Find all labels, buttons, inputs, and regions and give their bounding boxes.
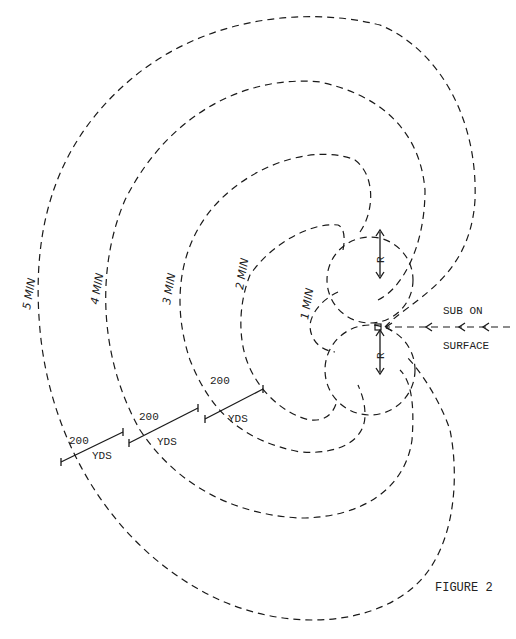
contour-2min xyxy=(241,225,344,420)
scale-bar-2-value: 200 xyxy=(139,411,159,423)
approach-arrow xyxy=(386,323,510,331)
scale-bar-2-unit: YDS xyxy=(157,436,177,448)
scale-bar-1-unit: YDS xyxy=(92,450,112,462)
diagram-canvas: R R SUB ON SURFACE 5 MIN 4 MIN 3 MIN 2 M… xyxy=(0,0,516,639)
lower-circle xyxy=(325,325,415,415)
radius-label-top: R xyxy=(375,256,387,263)
radius-label-bottom: R xyxy=(375,352,387,359)
contour-3min xyxy=(180,154,371,452)
sub-label-line2: SURFACE xyxy=(443,340,490,352)
figure-caption: FIGURE 2 xyxy=(435,581,493,595)
scale-bar-3-unit: YDS xyxy=(228,413,248,425)
label-2min: 2 MIN xyxy=(233,257,251,290)
sub-label-line1: SUB ON xyxy=(443,305,483,317)
contour-5min xyxy=(38,17,475,620)
radius-arrow-bottom xyxy=(376,330,384,374)
label-4min: 4 MIN xyxy=(88,272,106,305)
label-5min: 5 MIN xyxy=(20,277,38,310)
scale-bar-3-value: 200 xyxy=(210,375,230,387)
label-1min: 1 MIN xyxy=(298,287,316,320)
scale-bar-1-value: 200 xyxy=(69,435,89,447)
contour-4min xyxy=(106,81,425,518)
label-3min: 3 MIN xyxy=(160,272,178,305)
